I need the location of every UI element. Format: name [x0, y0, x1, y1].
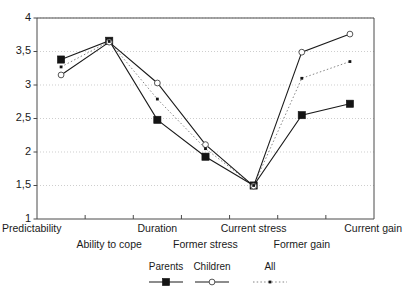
- data-point-all: [156, 98, 159, 101]
- x-axis-tick-label: Former stress: [173, 238, 238, 250]
- data-point-parents: [298, 112, 305, 119]
- legend-label-all: All: [264, 261, 275, 272]
- data-point-children: [347, 31, 353, 37]
- data-point-all: [108, 40, 111, 43]
- data-point-all: [349, 60, 352, 63]
- y-axis-tick-label: 2,5: [16, 111, 31, 123]
- legend-label-children: Children: [193, 261, 230, 272]
- chart-legend: ParentsChildrenAll: [149, 261, 287, 286]
- y-tick-labels: 11,522,533,54: [16, 11, 31, 224]
- data-point-all: [300, 77, 303, 80]
- data-point-all: [60, 66, 63, 69]
- y-axis-tick-label: 1,5: [16, 178, 31, 190]
- series-markers: [57, 31, 353, 189]
- series-lines: [61, 34, 350, 186]
- line-chart: 11,522,533,54 PredictabilityAbility to c…: [0, 0, 404, 293]
- data-point-parents: [57, 56, 64, 63]
- x-axis-tick-label: Predictability: [2, 222, 62, 234]
- legend-marker-all: [269, 281, 272, 284]
- legend-marker-parents: [162, 278, 169, 285]
- legend-label-parents: Parents: [149, 261, 183, 272]
- data-point-all: [204, 147, 207, 150]
- y-axis-tick-label: 2: [25, 145, 31, 157]
- series-line-children: [61, 34, 350, 186]
- legend-marker-children: [209, 279, 215, 285]
- y-axis-tick-label: 3: [25, 78, 31, 90]
- data-point-parents: [346, 100, 353, 107]
- data-point-parents: [202, 153, 209, 160]
- y-axis-tick-label: 3,5: [16, 44, 31, 56]
- data-point-all: [252, 184, 255, 187]
- x-axis-tick-label: Current stress: [221, 222, 287, 234]
- data-point-children: [299, 49, 305, 55]
- x-axis-tick-label: Former gain: [273, 238, 330, 250]
- data-point-children: [154, 80, 160, 86]
- x-tick-labels: PredictabilityAbility to copeDurationFor…: [2, 222, 402, 250]
- x-axis-tick-label: Current gain: [344, 222, 402, 234]
- x-axis-tick-label: Duration: [138, 222, 178, 234]
- y-axis: [34, 18, 38, 219]
- x-axis-tick-label: Ability to cope: [77, 238, 143, 250]
- chart-canvas: 11,522,533,54 PredictabilityAbility to c…: [0, 0, 404, 293]
- data-point-children: [58, 72, 64, 78]
- data-point-parents: [154, 116, 161, 123]
- series-line-parents: [61, 41, 350, 186]
- data-point-children: [203, 142, 209, 148]
- x-axis: [37, 215, 374, 219]
- y-axis-tick-label: 4: [25, 11, 31, 23]
